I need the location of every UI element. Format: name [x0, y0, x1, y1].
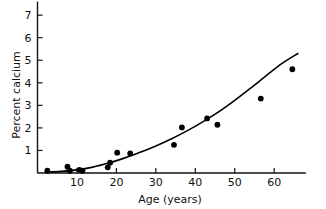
- x-tick-label: 20: [109, 176, 123, 189]
- x-tick-label: 10: [70, 176, 84, 189]
- y-axis: 1234567: [25, 2, 43, 173]
- data-point-marker: [80, 168, 86, 174]
- data-point-marker: [289, 66, 295, 72]
- data-point-marker: [67, 168, 73, 174]
- data-point-marker: [258, 96, 264, 102]
- fitted-curve-path: [45, 53, 297, 172]
- y-tick-label: 6: [25, 32, 32, 45]
- data-point-marker: [107, 160, 113, 166]
- chart-figure: 1234567 102030405060 Percent calcium Age…: [0, 0, 326, 209]
- x-axis-title: Age (years): [138, 193, 202, 206]
- percent-calcium-vs-age-chart: 1234567 102030405060 Percent calcium Age…: [0, 0, 326, 209]
- y-tick-label: 7: [25, 9, 32, 22]
- y-tick-label: 2: [25, 122, 32, 135]
- x-tick-label: 40: [188, 176, 202, 189]
- x-tick-label: 50: [228, 176, 242, 189]
- data-point-marker: [171, 142, 177, 148]
- y-tick-label: 1: [25, 144, 32, 157]
- data-point-marker: [127, 150, 133, 156]
- x-tick-label: 30: [149, 176, 163, 189]
- fitted-curve: [45, 53, 297, 172]
- data-point-marker: [114, 150, 120, 156]
- x-tick-label: 60: [267, 176, 281, 189]
- y-tick-label: 5: [25, 54, 32, 67]
- y-axis-title: Percent calcium: [10, 51, 23, 139]
- y-tick-label: 4: [25, 77, 32, 90]
- data-point-marker: [44, 168, 50, 174]
- data-point-marker: [204, 116, 210, 122]
- y-tick-label: 3: [25, 99, 32, 112]
- data-point-marker: [214, 122, 220, 128]
- data-point-marker: [179, 125, 185, 131]
